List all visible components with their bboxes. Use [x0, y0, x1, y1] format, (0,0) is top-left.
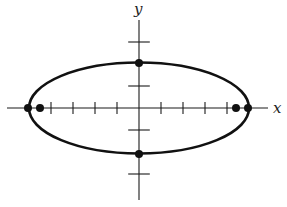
y-axis-label: y [133, 0, 143, 18]
right-focus-point [232, 104, 240, 112]
axes [7, 20, 268, 200]
ellipse-diagram: x y [0, 0, 287, 207]
bottom-co-vertex-point [135, 150, 143, 158]
top-co-vertex-point [135, 59, 143, 67]
left-focus-point [36, 104, 44, 112]
left-vertex-point [24, 104, 32, 112]
right-vertex-point [244, 104, 252, 112]
x-axis-label: x [273, 99, 282, 117]
